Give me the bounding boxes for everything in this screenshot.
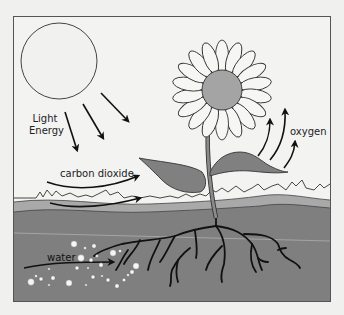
carbon-dioxide-label: carbon dioxide xyxy=(60,168,134,180)
water-label: water xyxy=(47,252,76,264)
light-energy-line2: Energy xyxy=(29,125,61,137)
sun xyxy=(21,23,97,99)
photosynthesis-diagram xyxy=(0,0,344,315)
oxygen-label: oxygen xyxy=(290,126,326,138)
flower-center xyxy=(202,70,242,110)
light-energy-label: Light Energy xyxy=(29,113,61,137)
light-energy-line1: Light xyxy=(29,113,61,125)
